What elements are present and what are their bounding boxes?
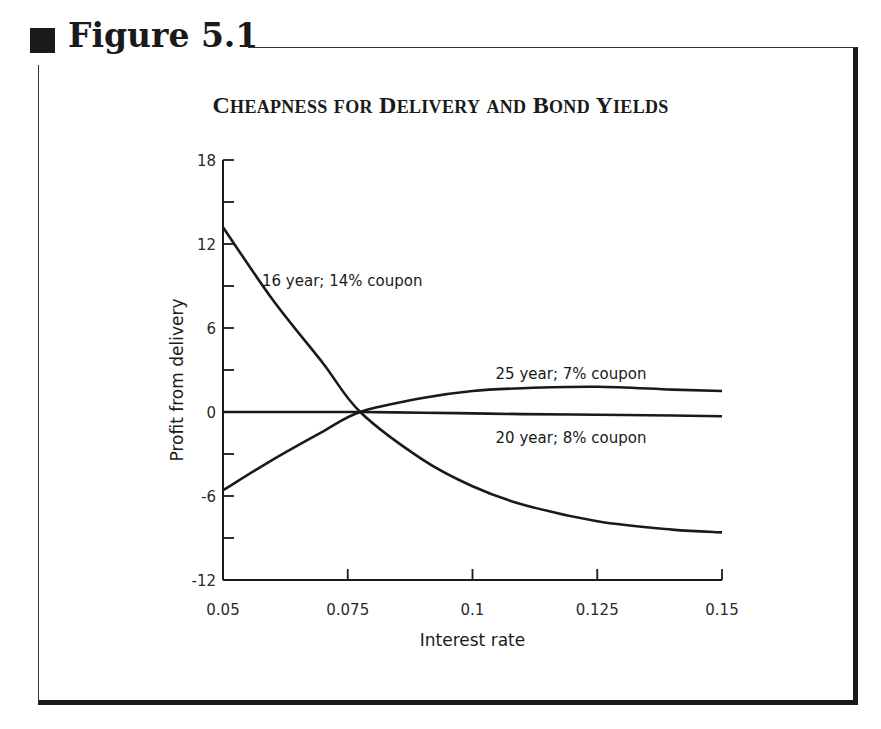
- y-tick-label: 18: [197, 152, 216, 170]
- y-axis-label: Profit from delivery: [167, 299, 187, 462]
- x-axis-label: Interest rate: [420, 630, 525, 650]
- y-tick-label: -12: [192, 572, 217, 590]
- line-chart: 181260-6-120.050.0750.10.1250.15Interest…: [0, 0, 881, 729]
- series-20yr-8pct-line: [223, 412, 722, 416]
- series-label-25yr: 25 year; 7% coupon: [496, 365, 647, 383]
- y-tick-label: 6: [206, 320, 216, 338]
- x-tick-label: 0.05: [206, 601, 239, 619]
- y-tick-label: 12: [197, 236, 216, 254]
- series-25yr-7pct-line: [223, 387, 722, 491]
- x-tick-label: 0.075: [326, 601, 369, 619]
- x-tick-label: 0.15: [705, 601, 738, 619]
- y-tick-label: 0: [206, 404, 216, 422]
- y-tick-label: -6: [201, 488, 216, 506]
- x-tick-label: 0.1: [461, 601, 485, 619]
- series-label-16yr: 16 year; 14% coupon: [262, 272, 422, 290]
- series-label-20yr: 20 year; 8% coupon: [496, 429, 647, 447]
- x-tick-label: 0.125: [576, 601, 619, 619]
